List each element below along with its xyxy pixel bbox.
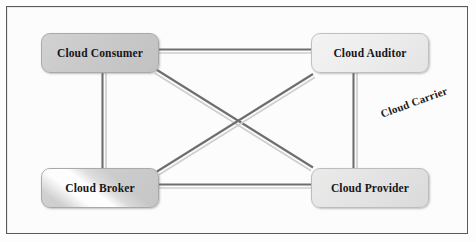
connector-auditor-provider (354, 71, 358, 170)
node-label: Cloud Provider (331, 182, 409, 194)
diagram-canvas: Cloud Consumer Cloud Auditor Cloud Broke… (0, 0, 476, 242)
node-cloud-consumer[interactable]: Cloud Consumer (41, 33, 159, 73)
node-cloud-provider[interactable]: Cloud Provider (311, 168, 429, 208)
node-cloud-auditor[interactable]: Cloud Auditor (311, 33, 429, 73)
node-cloud-broker[interactable]: Cloud Broker (41, 168, 159, 208)
node-label: Cloud Broker (65, 182, 135, 194)
node-label: Cloud Consumer (57, 47, 143, 59)
connector-consumer-auditor (159, 50, 312, 54)
connector-consumer-broker (103, 71, 107, 170)
node-label: Cloud Auditor (333, 47, 406, 59)
connector-consumer-provider (155, 70, 313, 171)
connector-broker-provider (159, 185, 312, 189)
